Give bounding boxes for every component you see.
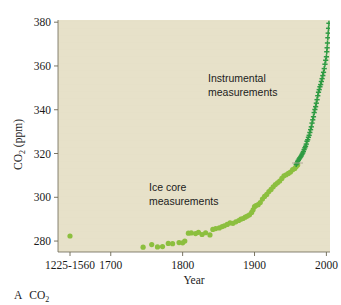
data-point — [170, 241, 175, 246]
data-point — [149, 242, 154, 247]
svg-text:ACO2: ACO2 — [14, 289, 49, 304]
x-tick-label: 1900 — [243, 259, 266, 271]
y-tick-label: 280 — [34, 235, 52, 247]
caption-sub: 2 — [45, 295, 49, 304]
caption-text: CO — [29, 289, 45, 301]
plot-texture — [58, 20, 330, 252]
x-tick-label: 1800 — [171, 259, 194, 271]
co2-chart: 280300320340360380 1225-1560170018001900… — [0, 0, 341, 305]
annotation-ice-core-line2: measurements — [149, 195, 218, 207]
x-tick-label: 2000 — [315, 259, 338, 271]
y-tick-label: 360 — [34, 60, 52, 72]
figure-caption: ACO2 — [14, 289, 49, 304]
y-tick-label: 300 — [34, 191, 52, 203]
y-tick-label: 380 — [34, 16, 52, 28]
svg-text:CO2 (ppm): CO2 (ppm) — [12, 119, 27, 170]
y-axis-ticks: 280300320340360380 — [34, 16, 58, 247]
annotation-instrumental-line2: measurements — [208, 86, 277, 98]
co2-figure: 280300320340360380 1225-1560170018001900… — [0, 0, 341, 305]
y-tick-label: 320 — [34, 148, 52, 160]
y-tick-label: 340 — [34, 104, 52, 116]
y-axis-title-main: CO — [12, 154, 24, 170]
x-axis-title: Year — [183, 274, 204, 286]
data-point — [207, 232, 212, 237]
x-axis-ticks: 1225-15601700180019002000 — [45, 252, 338, 271]
data-point — [182, 238, 187, 243]
y-axis-title-unit: (ppm) — [12, 119, 25, 150]
annotation-ice-core-line1: Ice core — [149, 181, 187, 193]
data-point — [141, 245, 146, 250]
x-tick-label-category: 1225-1560 — [45, 259, 95, 271]
data-point — [160, 244, 165, 249]
x-tick-label: 1700 — [99, 259, 122, 271]
data-point — [67, 233, 72, 238]
data-point — [155, 244, 160, 249]
annotation-instrumental-line1: Instrumental — [208, 72, 266, 84]
y-axis-title: CO2 (ppm) — [12, 119, 27, 170]
caption-letter: A — [14, 289, 23, 301]
